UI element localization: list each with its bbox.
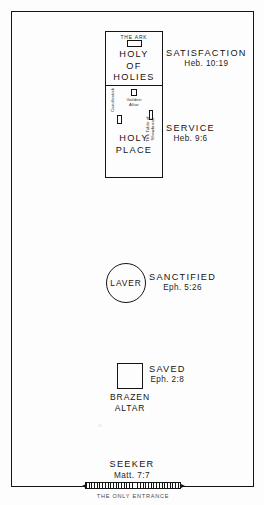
callout-satisfaction: SATISFACTION Heb. 10:19 (166, 48, 247, 70)
holy-place-title-line-1: HOLY (106, 133, 162, 145)
holy-of-holies-title: HOLY OF HOLIES (106, 49, 162, 84)
callout-sanctified-ref: Eph. 5:26 (149, 283, 216, 294)
brazen-altar-label: BRAZEN ALTAR (92, 392, 168, 413)
callout-saved: SAVED Eph. 2:8 (149, 364, 186, 386)
sanctuary-tent: THE ARK HOLY OF HOLIES Golden Altar Cand… (105, 31, 163, 178)
scan-artifact (98, 424, 102, 427)
holy-of-holies-title-line-1: HOLY (106, 49, 162, 61)
ark-of-covenant-icon (127, 40, 142, 47)
ark-label: THE ARK (106, 34, 162, 40)
entrance-gate-icon (85, 482, 181, 489)
holy-of-holies-title-line-2: OF (106, 61, 162, 73)
callout-seeker: SEEKER Matt. 7:7 (82, 459, 182, 481)
callout-sanctified-head: SANCTIFIED (149, 272, 216, 283)
golden-altar-icon (131, 89, 137, 96)
brazen-altar-label-line-2: ALTAR (92, 403, 168, 414)
holy-place-title: HOLY PLACE (106, 133, 162, 156)
callout-service-ref: Heb. 9:6 (166, 134, 215, 145)
holy-place-title-line-2: PLACE (106, 145, 162, 157)
callout-saved-head: SAVED (149, 364, 186, 375)
callout-satisfaction-head: SATISFACTION (166, 48, 247, 59)
holy-of-holies-room: THE ARK HOLY OF HOLIES (106, 32, 162, 86)
laver-basin: LAVER (106, 263, 146, 303)
callout-saved-ref: Eph. 2:8 (149, 375, 186, 386)
tabernacle-diagram: THE ARK HOLY OF HOLIES Golden Altar Cand… (0, 0, 264, 505)
callout-sanctified: SANCTIFIED Eph. 5:26 (149, 272, 216, 294)
laver-label: LAVER (110, 278, 141, 288)
candlestick-label: Candlestick (110, 80, 115, 112)
holy-place-room: Golden Altar Candlestick The Table of Sh… (106, 86, 162, 177)
callout-seeker-ref: Matt. 7:7 (82, 471, 182, 482)
entrance-label: THE ONLY ENTRANCE (62, 493, 204, 499)
brazen-altar-label-line-1: BRAZEN (92, 392, 168, 403)
callout-satisfaction-ref: Heb. 10:19 (166, 59, 247, 70)
candlestick-icon (117, 115, 122, 124)
callout-seeker-head: SEEKER (82, 459, 182, 471)
callout-service: SERVICE Heb. 9:6 (166, 123, 215, 145)
brazen-altar-icon (117, 363, 143, 389)
callout-service-head: SERVICE (166, 123, 215, 134)
